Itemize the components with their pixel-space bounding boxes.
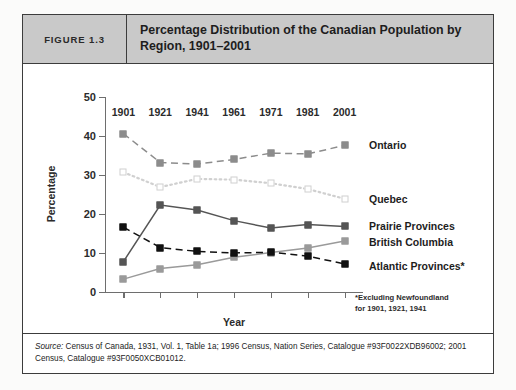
data-point-ontario [194,161,201,168]
data-point-ontario [157,159,164,166]
legend-label-british-columbia: British Columbia [369,236,453,248]
data-point-ontario [304,150,311,157]
data-point-atlantic-provinces [304,253,311,260]
data-point-ontario [231,156,238,163]
y-tick [99,292,105,293]
data-point-ontario [120,130,127,137]
x-tick [197,292,198,298]
series-lines [105,97,363,292]
y-tick-label: 20 [84,208,96,220]
data-point-british-columbia [341,237,348,244]
data-point-prairie-provinces [194,207,201,214]
x-tick-label: 1971 [259,106,282,118]
data-point-british-columbia [304,244,311,251]
y-tick-label: 50 [84,91,96,103]
figure-number: FIGURE 1.3 [23,15,127,63]
x-tick [308,292,309,298]
y-tick [99,136,105,137]
data-point-prairie-provinces [267,225,274,232]
y-tick-label: 40 [84,130,96,142]
data-point-ontario [341,142,348,149]
data-point-prairie-provinces [157,202,164,209]
chart-area: Percentage Year 01020304050 190119211941… [23,64,493,326]
x-tick-label: 1921 [149,106,172,118]
data-point-prairie-provinces [231,217,238,224]
data-point-prairie-provinces [341,223,348,230]
x-tick [234,292,235,298]
data-point-british-columbia [194,261,201,268]
source-text: Census of Canada, 1931, Vol. 1, Table 1a… [35,342,466,363]
y-tick-label: 10 [84,247,96,259]
data-point-quebec [157,184,164,191]
footnote-line-1: *Excluding Newfoundland [355,292,449,303]
y-tick-label: 0 [90,286,96,298]
data-point-prairie-provinces [304,221,311,228]
x-tick [271,292,272,298]
data-point-british-columbia [120,276,127,283]
data-point-atlantic-provinces [120,224,127,231]
x-tick [345,292,346,298]
data-point-british-columbia [157,265,164,272]
legend-label-prairie-provinces: Prairie Provinces [369,220,455,232]
data-point-ontario [267,150,274,157]
y-axis-label: Percentage [45,166,57,223]
data-point-quebec [231,176,238,183]
legend-label-quebec: Quebec [369,193,408,205]
source-divider [23,333,493,334]
x-axis-label: Year [223,316,245,328]
x-tick-label: 1961 [222,106,245,118]
x-tick [123,292,124,298]
figure-title: Percentage Distribution of the Canadian … [127,15,493,63]
x-tick-label: 1981 [296,106,319,118]
x-tick-label: 2001 [333,106,356,118]
data-point-atlantic-provinces [194,248,201,255]
legend-label-atlantic-provinces: Atlantic Provinces* [369,260,465,272]
data-point-quebec [267,180,274,187]
data-point-quebec [120,169,127,176]
plot-region: 01020304050 1901192119411961197119812001 [105,97,363,292]
data-point-prairie-provinces [120,258,127,265]
y-tick [99,214,105,215]
y-tick-label: 30 [84,169,96,181]
data-point-atlantic-provinces [341,260,348,267]
footnote-line-2: for 1901, 1921, 1941 [355,303,449,314]
data-point-quebec [304,186,311,193]
y-tick [99,97,105,98]
data-point-quebec [194,175,201,182]
x-tick-label: 1901 [112,106,135,118]
legend-label-ontario: Ontario [369,139,406,151]
data-point-quebec [341,195,348,202]
footnote: *Excluding Newfoundland for 1901, 1921, … [355,292,449,314]
data-point-atlantic-provinces [267,249,274,256]
figure-frame: FIGURE 1.3 Percentage Distribution of th… [22,14,494,374]
figure-header: FIGURE 1.3 Percentage Distribution of th… [23,15,493,64]
y-tick [99,175,105,176]
source-label: Source: [35,342,63,351]
source-note: Source: Census of Canada, 1931, Vol. 1, … [35,341,481,366]
x-tick-label: 1941 [185,106,208,118]
y-tick [99,253,105,254]
data-point-atlantic-provinces [157,244,164,251]
figure-page: FIGURE 1.3 Percentage Distribution of th… [0,0,516,390]
data-point-atlantic-provinces [231,250,238,257]
x-tick [160,292,161,298]
